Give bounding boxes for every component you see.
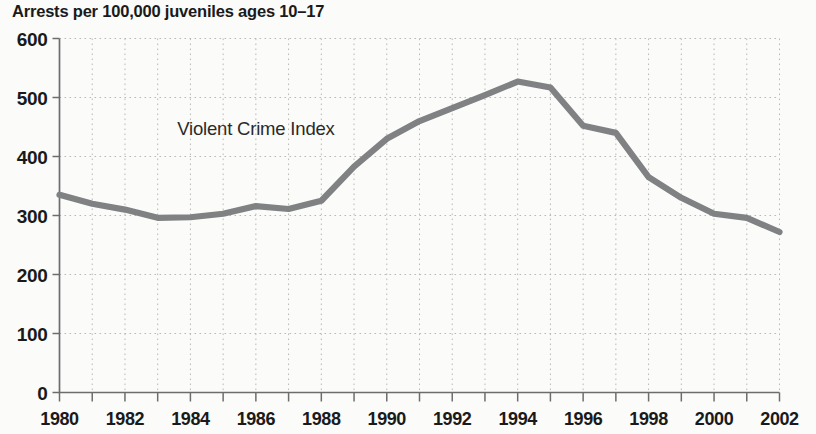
y-tick-label: 100 [17,324,48,345]
y-tick-label: 300 [17,206,48,227]
line-chart-svg: 0100200300400500600 19801982198419861988… [0,0,816,434]
x-tick-label: 2000 [695,409,734,429]
plot-area: 0100200300400500600 19801982198419861988… [0,0,816,434]
chart-page: Arrests per 100,000 juveniles ages 10–17… [0,0,816,434]
x-tick-label: 1986 [237,409,276,429]
x-tick-label: 1982 [106,409,145,429]
x-tick-label: 1988 [302,409,341,429]
y-tick-label: 600 [17,29,48,50]
y-tick-label: 500 [17,88,48,109]
x-tick-label: 1996 [564,409,603,429]
x-tick-label: 1992 [433,409,472,429]
series-annotation-text: Violent Crime Index [177,118,335,139]
y-tick-label: 200 [17,265,48,286]
x-tick-label: 1990 [368,409,407,429]
x-tick-label: 1980 [40,409,79,429]
y-tick-label: 400 [17,147,48,168]
x-axis-tick-labels: 1980198219841986198819901992199419961998… [40,409,799,429]
x-tick-label: 1984 [171,409,210,429]
y-axis-tick-labels: 0100200300400500600 [17,29,48,404]
x-axis-ticks [60,393,780,402]
y-axis-ticks [53,39,60,393]
x-tick-label: 1994 [498,409,537,429]
y-tick-label: 0 [37,383,47,404]
x-tick-label: 1998 [629,409,668,429]
x-tick-label: 2002 [760,409,799,429]
series-annotation-label: Violent Crime Index [177,118,335,139]
